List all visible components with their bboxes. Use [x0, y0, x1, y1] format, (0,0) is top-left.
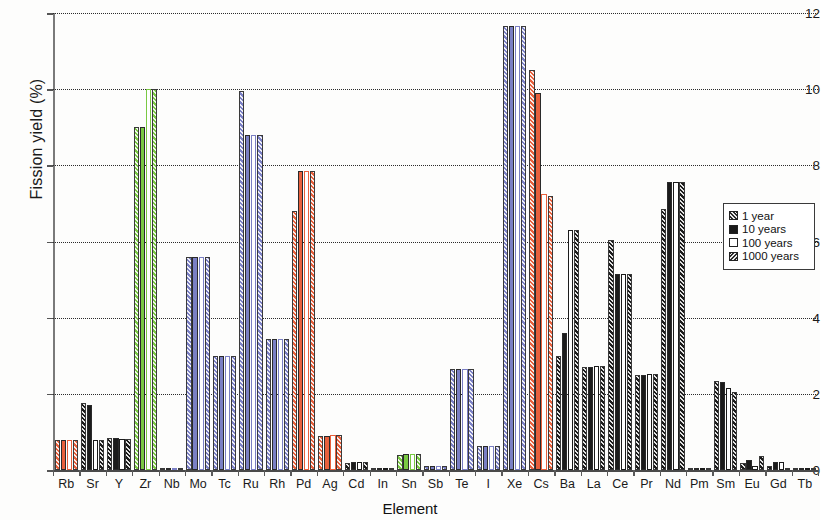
bar [324, 436, 329, 470]
bar [752, 466, 757, 470]
bar [615, 274, 620, 470]
x-tick-mark [792, 470, 793, 476]
legend-swatch-icon [729, 211, 738, 220]
legend: 1 year10 years100 years1000 years [723, 203, 815, 270]
bar [759, 456, 764, 470]
bar [515, 26, 520, 470]
bar-group [238, 13, 264, 470]
bar [239, 91, 244, 470]
bar [468, 369, 473, 470]
bar [330, 435, 335, 470]
x-tick-mark [422, 470, 423, 476]
x-tick-mark [712, 470, 713, 476]
bar [225, 356, 230, 470]
bar [714, 381, 719, 470]
bar-group [159, 13, 185, 470]
bar [363, 462, 368, 470]
legend-item: 1 year [729, 210, 809, 222]
x-axis-line [53, 470, 818, 472]
bar [186, 257, 191, 470]
bar [556, 356, 561, 470]
bar [199, 257, 204, 470]
bar [318, 436, 323, 470]
bar [641, 375, 646, 470]
bar [245, 135, 250, 470]
x-tick-mark [79, 470, 80, 476]
legend-swatch-icon [729, 238, 738, 247]
x-tick-mark [211, 470, 212, 476]
bar [588, 367, 593, 470]
plot-area [53, 13, 818, 470]
bar [424, 466, 429, 470]
legend-label: 1000 years [742, 250, 799, 262]
bar [740, 463, 745, 470]
x-tick-mark [370, 470, 371, 476]
bar-group [686, 13, 712, 470]
bar [377, 468, 382, 470]
bar [87, 405, 92, 471]
x-tick-mark [159, 470, 160, 476]
bar [489, 446, 494, 470]
bar [799, 468, 804, 470]
x-tick-mark [501, 470, 502, 476]
bar [113, 438, 118, 470]
bar [785, 468, 790, 470]
bar [213, 356, 218, 470]
legend-label: 1 year [742, 210, 774, 222]
bar [450, 369, 455, 470]
bar [462, 369, 467, 470]
bar [371, 468, 376, 470]
bar [357, 462, 362, 470]
bar [456, 369, 461, 470]
bar [160, 468, 165, 470]
bar [529, 70, 534, 470]
bar [219, 356, 224, 470]
bar-group [475, 13, 501, 470]
bar [767, 466, 772, 470]
bar-group [317, 13, 343, 470]
x-tick-mark [449, 470, 450, 476]
x-tick-mark [475, 470, 476, 476]
x-tick-label-tb: Tb [785, 477, 825, 491]
bar-group [449, 13, 475, 470]
bar [483, 446, 488, 470]
bar [107, 438, 112, 470]
bar [93, 440, 98, 470]
bar [304, 171, 309, 470]
bar [805, 468, 810, 470]
bar-group [211, 13, 237, 470]
bar [284, 339, 289, 470]
bar [653, 374, 658, 470]
bar [548, 196, 553, 470]
x-tick-mark [528, 470, 529, 476]
x-axis-title: Element [0, 500, 820, 517]
bar-group [79, 13, 105, 470]
x-tick-mark [739, 470, 740, 476]
bar [746, 460, 751, 470]
bar [298, 171, 303, 470]
bar [125, 439, 130, 470]
bar [608, 240, 613, 470]
legend-item: 10 years [729, 223, 809, 235]
bar [266, 339, 271, 470]
bar [503, 26, 508, 470]
x-tick-mark [53, 470, 54, 476]
x-tick-mark [290, 470, 291, 476]
bar [521, 26, 526, 470]
bar [257, 135, 262, 470]
bar [773, 462, 778, 470]
bar-group [53, 13, 79, 470]
bar [383, 468, 388, 470]
x-tick-mark [633, 470, 634, 476]
bar-group [581, 13, 607, 470]
x-tick-mark [818, 470, 819, 476]
bar-group [422, 13, 448, 470]
bar [351, 462, 356, 470]
x-tick-mark [238, 470, 239, 476]
bar [621, 274, 626, 470]
bar-group [633, 13, 659, 470]
legend-swatch-icon [729, 252, 738, 261]
bar [152, 89, 157, 470]
bar [635, 375, 640, 470]
